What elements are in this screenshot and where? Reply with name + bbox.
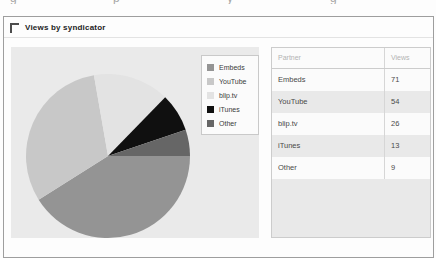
pie-chart-area: EmbedsYouTubeblip.tviTunesOther [11, 47, 259, 238]
panel-header: Views by syndicator [4, 17, 433, 38]
cell-views: 71 [384, 69, 430, 91]
table-row: Embeds71 [272, 69, 430, 91]
legend-swatch-icon [207, 78, 214, 85]
cell-partner: Embeds [272, 69, 384, 91]
cell-partner: blip.tv [272, 113, 384, 135]
cell-partner: iTunes [272, 135, 384, 157]
syndicator-table: Partner Views Embeds71YouTube54blip.tv26… [271, 47, 431, 238]
cell-views: 26 [384, 113, 430, 135]
chart-legend: EmbedsYouTubeblip.tviTunesOther [201, 55, 259, 135]
cropped-glyph: g [330, 0, 337, 4]
legend-swatch-icon [207, 92, 214, 99]
cell-views: 13 [384, 135, 430, 157]
table-body: Embeds71YouTube54blip.tv26iTunes13Other9 [272, 69, 430, 179]
legend-swatch-icon [207, 120, 214, 127]
legend-label: iTunes [219, 106, 240, 113]
legend-swatch-icon [207, 64, 214, 71]
legend-label: YouTube [219, 78, 247, 85]
table-row: YouTube54 [272, 91, 430, 113]
table-row: blip.tv26 [272, 113, 430, 135]
cell-partner: YouTube [272, 91, 384, 113]
cell-partner: Other [272, 157, 384, 179]
cropped-glyph: g [10, 0, 17, 4]
column-header-views: Views [384, 48, 430, 68]
table-row: iTunes13 [272, 135, 430, 157]
cell-views: 54 [384, 91, 430, 113]
cropped-glyph: y [227, 0, 233, 4]
legend-item: Embeds [207, 60, 254, 74]
legend-item: Other [207, 116, 254, 130]
section-toggle-icon[interactable] [10, 23, 19, 33]
pie-chart [24, 72, 192, 240]
table-filler [272, 179, 430, 237]
legend-item: blip.tv [207, 88, 254, 102]
column-header-partner: Partner [272, 48, 384, 68]
legend-label: Embeds [219, 64, 245, 71]
legend-label: Other [219, 120, 237, 127]
table-header-row: Partner Views [272, 48, 430, 69]
legend-item: iTunes [207, 102, 254, 116]
legend-item: YouTube [207, 74, 254, 88]
legend-label: blip.tv [219, 92, 237, 99]
cell-views: 9 [384, 157, 430, 179]
legend-swatch-icon [207, 106, 214, 113]
table-row: Other9 [272, 157, 430, 179]
cropped-glyph: p [113, 0, 120, 4]
cropped-text-line: g p y g [0, 0, 436, 4]
panel-title: Views by syndicator [25, 23, 106, 32]
views-by-syndicator-panel: Views by syndicator EmbedsYouTubeblip.tv… [3, 16, 434, 258]
